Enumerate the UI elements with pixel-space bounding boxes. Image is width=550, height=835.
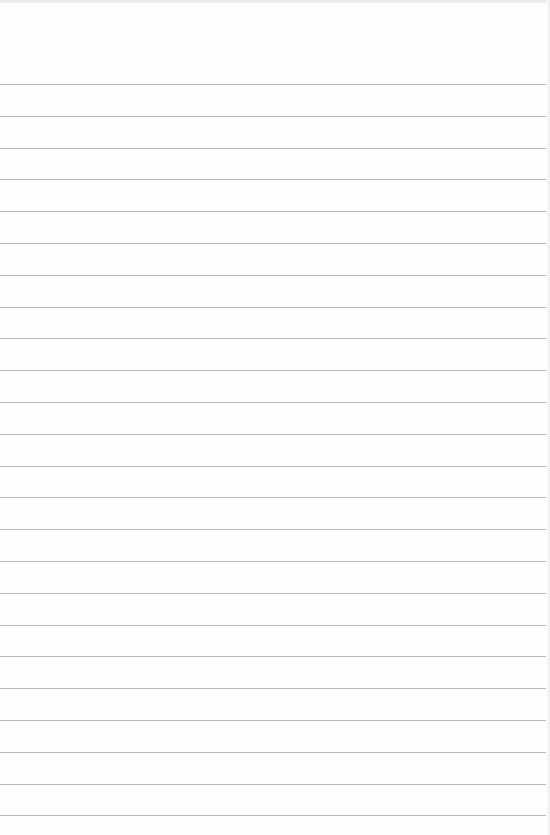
ruled-line xyxy=(0,211,550,212)
ruled-line xyxy=(0,338,550,339)
ruled-line xyxy=(0,593,550,594)
ruled-line xyxy=(0,466,550,467)
ruled-line xyxy=(0,84,550,85)
ruled-line xyxy=(0,720,550,721)
ruled-paper xyxy=(0,0,550,835)
ruled-line xyxy=(0,561,550,562)
paper-right-edge xyxy=(546,0,550,835)
ruled-line xyxy=(0,656,550,657)
ruled-line xyxy=(0,529,550,530)
ruled-line xyxy=(0,179,550,180)
ruled-line xyxy=(0,402,550,403)
ruled-line xyxy=(0,116,550,117)
ruled-line xyxy=(0,497,550,498)
ruled-line xyxy=(0,815,550,816)
ruled-line xyxy=(0,307,550,308)
ruled-line xyxy=(0,370,550,371)
ruled-line xyxy=(0,752,550,753)
ruled-line xyxy=(0,148,550,149)
ruled-line xyxy=(0,243,550,244)
paper-top-edge xyxy=(0,0,550,3)
ruled-line xyxy=(0,625,550,626)
ruled-line xyxy=(0,434,550,435)
ruled-line xyxy=(0,784,550,785)
ruled-line xyxy=(0,275,550,276)
ruled-line xyxy=(0,688,550,689)
